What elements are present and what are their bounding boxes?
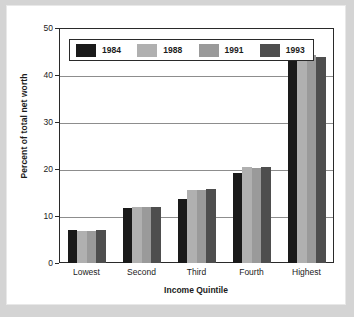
bar — [206, 189, 216, 263]
legend-item: 1984 — [76, 43, 121, 57]
y-tick-label: 20 — [13, 164, 53, 174]
bar — [151, 207, 161, 263]
bar — [187, 190, 197, 263]
bar — [242, 167, 252, 263]
y-tick-label: 50 — [13, 23, 53, 33]
figure-card: Percent of total net worth Income Quinti… — [7, 6, 345, 304]
bar — [96, 230, 106, 263]
bar — [233, 173, 243, 263]
bar — [307, 55, 317, 263]
legend-label: 1991 — [225, 45, 244, 55]
legend-swatch — [76, 44, 96, 57]
x-axis-title: Income Quintile — [55, 285, 337, 295]
x-tick-label: Highest — [267, 267, 347, 277]
bars-layer — [59, 28, 334, 263]
bar — [178, 199, 188, 263]
bar — [77, 231, 87, 263]
y-tick-label: 40 — [13, 70, 53, 80]
bar — [68, 230, 78, 263]
bar — [316, 57, 326, 263]
legend-swatch — [137, 44, 157, 57]
bar — [252, 168, 262, 263]
y-tick-label: 30 — [13, 117, 53, 127]
legend-label: 1993 — [286, 45, 305, 55]
legend-swatch — [199, 44, 219, 57]
bar — [197, 190, 207, 263]
legend-label: 1988 — [163, 45, 182, 55]
bar — [123, 208, 133, 263]
legend-item: 1993 — [260, 43, 305, 57]
legend: 1984198819911993 — [69, 39, 314, 61]
bar — [142, 207, 152, 263]
bar — [297, 55, 307, 263]
legend-swatch — [260, 44, 280, 57]
bar — [261, 167, 271, 263]
bar — [132, 207, 142, 263]
legend-label: 1984 — [102, 45, 121, 55]
legend-item: 1991 — [199, 43, 244, 57]
y-tick-label: 10 — [13, 211, 53, 221]
legend-item: 1988 — [137, 43, 182, 57]
bar — [87, 231, 97, 263]
y-tick-mark — [55, 263, 59, 264]
bar — [288, 40, 298, 263]
bar-chart: Percent of total net worth Income Quinti… — [7, 6, 345, 304]
